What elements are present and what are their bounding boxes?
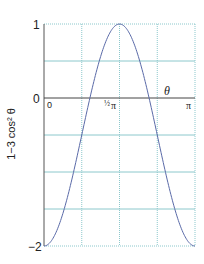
grid — [44, 24, 195, 246]
y-tick-0: 0 — [33, 93, 40, 105]
x-axis-label-theta: θ — [164, 85, 170, 97]
y-axis-label: 1−3 cos² θ — [5, 89, 17, 179]
x-tick-pi: π — [186, 101, 191, 111]
x-tick-half-pi-fraction: ½ — [104, 100, 110, 108]
y-tick-1: 1 — [33, 19, 40, 31]
x-tick-0: 0 — [47, 101, 52, 110]
y-tick-minus-2: −2 — [28, 241, 42, 253]
plot-area — [0, 0, 204, 264]
x-tick-half-pi: π — [111, 101, 116, 111]
